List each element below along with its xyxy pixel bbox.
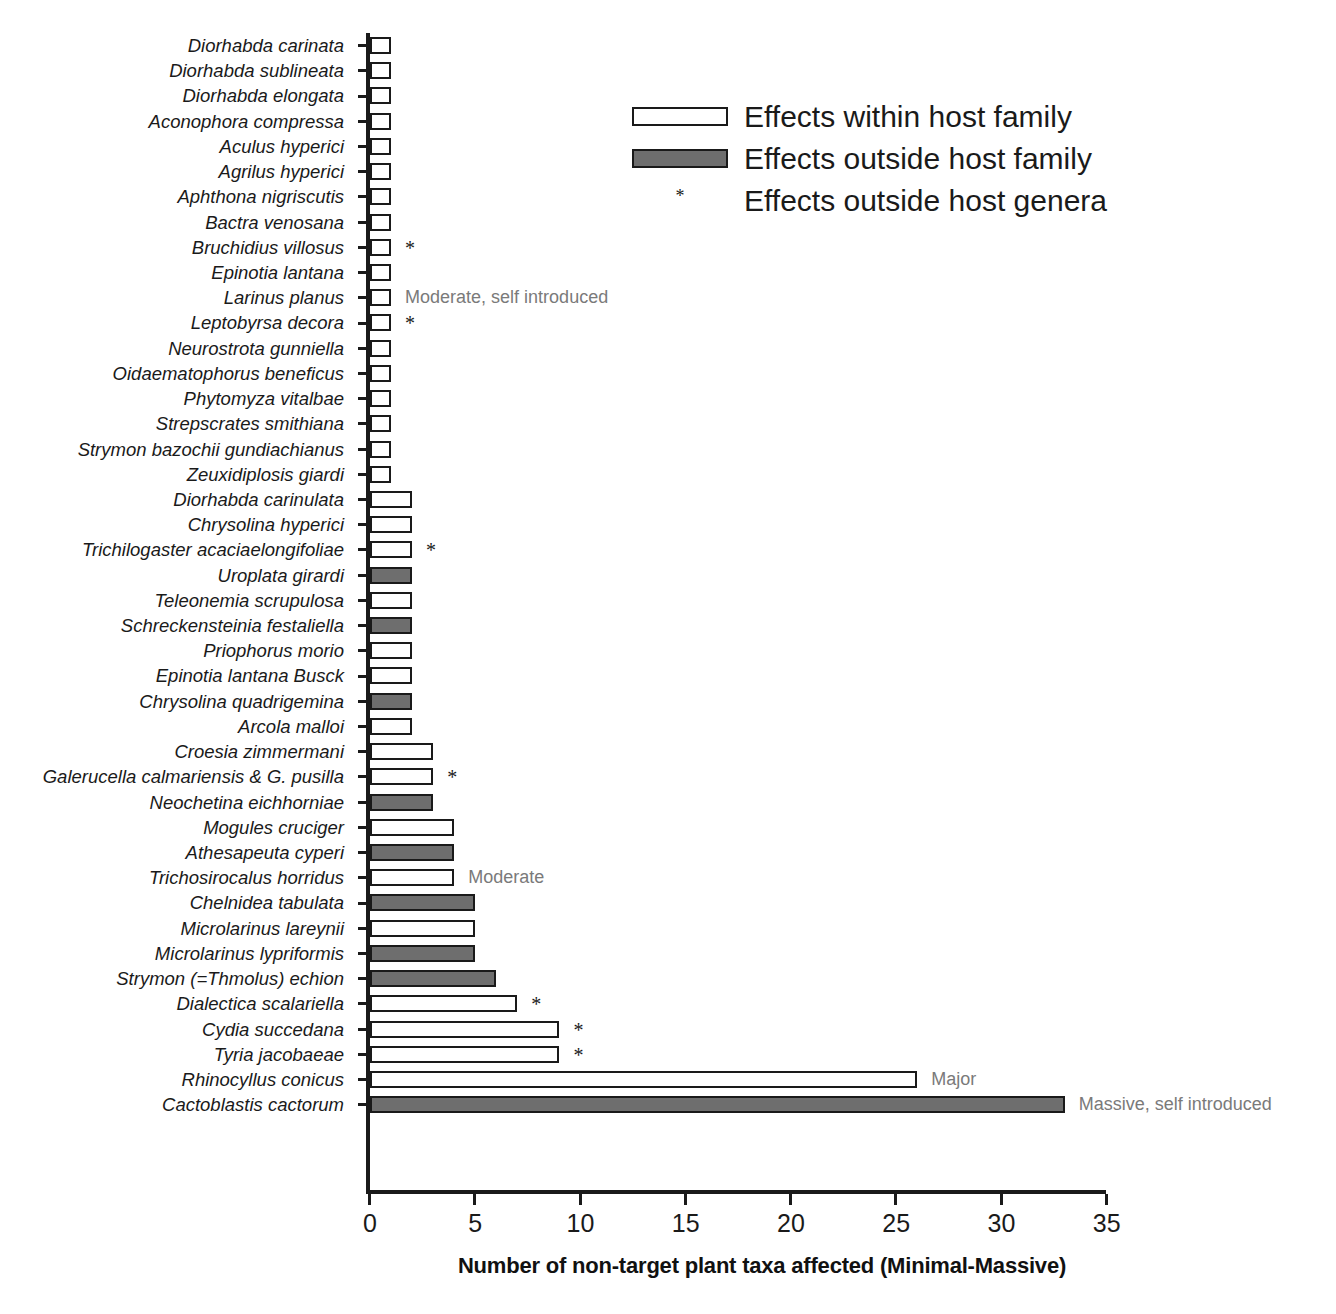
bar-row-label: Aphthona nigriscutis [0,184,352,209]
asterisk-icon: * [573,1018,583,1042]
y-axis-tick [358,548,367,551]
bar-within-host-family [370,340,391,357]
x-axis-title: Number of non-target plant taxa affected… [366,1253,1158,1279]
bar-within-host-family [370,642,412,659]
y-axis-tick [358,977,367,980]
bar-outside-host-family [370,945,475,962]
bar-row-label: Tyria jacobaeae [0,1042,352,1067]
bar-row-label: Mogules cruciger [0,815,352,840]
y-axis-tick [358,95,367,98]
bar-row-label: Aculus hyperici [0,134,352,159]
bar-annotation: Moderate [468,865,544,890]
legend-label: Effects within host family [744,96,1072,138]
y-axis-tick [358,1103,367,1106]
bar-row: Cydia succedana* [0,1017,1336,1042]
bar-within-host-family [370,188,391,205]
y-axis-tick [358,801,367,804]
bar-row-label: Larinus planus [0,285,352,310]
bar-row: Schreckensteinia festaliella [0,613,1336,638]
y-axis-tick [358,322,367,325]
bar-row: Mogules cruciger [0,815,1336,840]
bar-row: Epinotia lantana Busck [0,663,1336,688]
x-axis-tick [368,1194,371,1205]
bar-row: Oidaematophorus beneficus [0,361,1336,386]
y-axis-tick [358,422,367,425]
x-axis-tick [789,1194,792,1205]
x-axis-tick [684,1194,687,1205]
legend-label: Effects outside host family [744,138,1092,180]
asterisk-icon: * [632,186,728,207]
y-axis-tick [358,1028,367,1031]
y-axis-tick [358,397,367,400]
bar-row: Leptobyrsa decora* [0,310,1336,335]
bar-within-host-family [370,541,412,558]
y-axis-tick [358,170,367,173]
bar-row: Arcola malloi [0,714,1336,739]
bar-row-label: Oidaematophorus beneficus [0,361,352,386]
asterisk-icon: * [531,992,541,1016]
bar-row-label: Chrysolina quadrigemina [0,689,352,714]
asterisk-icon: * [426,538,436,562]
x-axis-tick-label: 35 [1077,1209,1137,1238]
bar-row-label: Diorhabda carinulata [0,487,352,512]
bar-row: Strymon bazochii gundiachianus [0,437,1336,462]
bar-within-host-family [370,264,391,281]
bar-row-label: Trichosirocalus horridus [0,865,352,890]
asterisk-icon: * [405,236,415,260]
y-axis-tick [358,498,367,501]
bar-row: Epinotia lantana [0,260,1336,285]
x-axis-tick [579,1194,582,1205]
bar-row-label: Arcola malloi [0,714,352,739]
x-axis-tick [473,1194,476,1205]
y-axis-tick [358,271,367,274]
bar-row-label: Diorhabda carinata [0,33,352,58]
bar-outside-host-family [370,794,433,811]
chart-legend: Effects within host familyEffects outsid… [632,96,1192,222]
bar-row-label: Epinotia lantana Busck [0,663,352,688]
bar-within-host-family [370,214,391,231]
bar-row-label: Strepscrates smithiana [0,411,352,436]
x-axis-tick-label: 0 [340,1209,400,1238]
chart-page: Diorhabda carinataDiorhabda sublineataDi… [0,0,1336,1314]
y-axis-tick [358,120,367,123]
bar-within-host-family [370,289,391,306]
bar-within-host-family [370,239,391,256]
bar-row: Trichosirocalus horridusModerate [0,865,1336,890]
bar-within-host-family [370,390,391,407]
bar-row: Galerucella calmariensis & G. pusilla* [0,764,1336,789]
x-axis-tick [1000,1194,1003,1205]
bar-row: Athesapeuta cyperi [0,840,1336,865]
bar-within-host-family [370,62,391,79]
legend-swatch-within [632,107,728,126]
bar-within-host-family [370,516,412,533]
bar-row: Diorhabda carinata [0,33,1336,58]
bar-within-host-family [370,37,391,54]
bar-row-label: Athesapeuta cyperi [0,840,352,865]
bar-within-host-family [370,441,391,458]
bar-annotation: Major [931,1067,976,1092]
bar-row: Strymon (=Thmolus) echion [0,966,1336,991]
bar-within-host-family [370,314,391,331]
y-axis-tick [358,473,367,476]
bar-within-host-family [370,415,391,432]
bar-within-host-family [370,365,391,382]
bar-row-label: Neochetina eichhorniae [0,790,352,815]
y-axis-tick [358,69,367,72]
bar-row-label: Galerucella calmariensis & G. pusilla [0,764,352,789]
y-axis-tick [358,145,367,148]
bar-row-label: Bruchidius villosus [0,235,352,260]
y-axis-tick [358,876,367,879]
x-axis-tick [1105,1194,1108,1205]
bar-row-label: Strymon bazochii gundiachianus [0,437,352,462]
asterisk-icon: * [573,1043,583,1067]
y-axis-tick [358,448,367,451]
bar-row: Rhinocyllus conicusMajor [0,1067,1336,1092]
bar-annotation: Massive, self introduced [1079,1092,1272,1117]
bar-row-label: Strymon (=Thmolus) echion [0,966,352,991]
x-axis-tick-label: 20 [761,1209,821,1238]
bar-row: Croesia zimmermani [0,739,1336,764]
bar-within-host-family [370,1071,917,1088]
bar-row-label: Neurostrota gunniella [0,336,352,361]
y-axis-tick [358,700,367,703]
y-axis-tick [358,927,367,930]
